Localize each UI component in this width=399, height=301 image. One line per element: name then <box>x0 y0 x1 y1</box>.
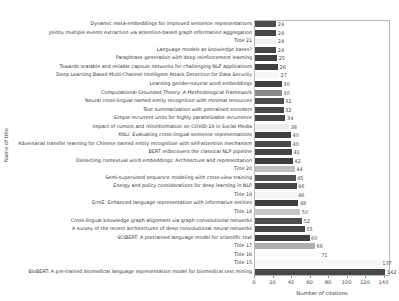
bar-label: BERT rediscovers the classical NLP pipel… <box>148 149 252 155</box>
x-tick-mark <box>365 276 366 278</box>
bar-label: Dissecting contextual word embeddings: A… <box>76 158 252 164</box>
bar-value-label: 27 <box>280 72 286 78</box>
bar-value-label: 34 <box>287 115 293 121</box>
bar-label: XNLI: Evaluating cross-lingual sentence … <box>118 132 252 138</box>
x-axis-title: Number of citations <box>254 290 390 296</box>
x-tick-mark <box>273 276 274 278</box>
bar-value-label: 26 <box>280 64 286 70</box>
x-tick-label: 20 <box>269 279 276 285</box>
bar <box>255 55 277 61</box>
bar-label: Title 16 <box>234 252 252 258</box>
bar <box>255 64 278 70</box>
citations-bar-chart: Dynamic meta-embeddings for improved sen… <box>0 0 399 301</box>
bar-label: Title 17 <box>234 243 252 249</box>
bar <box>255 226 305 232</box>
bar <box>255 47 276 53</box>
bar <box>255 30 276 36</box>
x-tick-label: 120 <box>360 279 370 285</box>
bar-value-label: 48 <box>300 200 306 206</box>
bar <box>255 252 320 258</box>
bar-label: ErnIE: Enhanced language representation … <box>92 200 252 206</box>
bar-label: Language models as knowledge bases? <box>157 47 252 53</box>
bar-label: A survey of the recent architectures of … <box>72 226 252 232</box>
bar <box>255 260 381 266</box>
x-tick-label: 40 <box>288 279 295 285</box>
bar-label: Title 21 <box>234 38 252 44</box>
bar-value-label: 24 <box>278 21 284 27</box>
bar <box>255 192 297 198</box>
bar-value-label: 30 <box>283 90 289 96</box>
bar-label: Title 18 <box>234 209 252 215</box>
x-tick-mark <box>347 276 348 278</box>
bar-label: BioBERT: A pre-trained biomedical langua… <box>28 269 252 275</box>
bar <box>255 132 291 138</box>
bar <box>255 183 297 189</box>
bar-value-label: 45 <box>297 175 303 181</box>
bar <box>255 243 315 249</box>
x-tick-label: 100 <box>342 279 352 285</box>
bar-label: Cross-lingual knowledge graph alignment … <box>71 218 252 224</box>
bar-value-label: 40 <box>293 132 299 138</box>
y-axis-title: Name of title <box>3 115 9 175</box>
bar-value-label: 24 <box>278 38 284 44</box>
bar-label: Title 19 <box>234 192 252 198</box>
bar <box>255 38 276 44</box>
bar-label: Title 15 <box>234 260 252 266</box>
bar <box>255 166 295 172</box>
bar-label: Impact of rumors and misinformation on C… <box>93 124 253 130</box>
bar-value-label: 32 <box>285 98 291 104</box>
bar <box>255 209 300 215</box>
bar-value-label: 25 <box>279 55 285 61</box>
x-tick-mark <box>328 276 329 278</box>
bar <box>255 235 310 241</box>
x-tick-label: 80 <box>325 279 332 285</box>
bar <box>255 149 292 155</box>
bar <box>255 141 291 147</box>
x-tick-mark <box>384 276 385 278</box>
x-tick-label: 140 <box>379 279 389 285</box>
bar-value-label: 24 <box>278 30 284 36</box>
bar-value-label: 41 <box>293 149 299 155</box>
bar-label: Energy and policy considerations for dee… <box>113 183 252 189</box>
x-tick-mark <box>254 276 255 278</box>
x-tick-label: 60 <box>306 279 313 285</box>
bar-value-label: 52 <box>304 218 310 224</box>
bar <box>255 124 289 130</box>
bar <box>255 175 296 181</box>
x-tick-mark <box>291 276 292 278</box>
bar <box>255 90 282 96</box>
bar-label: Simple recurrent units for highly parall… <box>114 115 252 121</box>
bar <box>255 72 279 78</box>
bar-label: Title 20 <box>234 166 252 172</box>
bar-value-label: 46 <box>298 183 304 189</box>
bar-value-label: 44 <box>296 166 302 172</box>
bar <box>255 218 302 224</box>
bar-value-label: 38 <box>291 124 297 130</box>
bar-label: Dynamic meta-embeddings for improved sen… <box>91 21 253 27</box>
x-tick-label: 0 <box>252 279 255 285</box>
bar-value-label: 42 <box>294 158 300 164</box>
x-tick-mark <box>310 276 311 278</box>
bar <box>255 81 282 87</box>
bar-label: Neural cross-lingual named entity recogn… <box>85 98 252 104</box>
bar-label: Learning gender-neutral word embeddings <box>150 81 252 87</box>
bar-value-label: 71 <box>321 252 327 258</box>
bar-label: Deep Learning Based Multi-Channel Intell… <box>56 72 252 78</box>
bar-value-label: 46 <box>298 192 304 198</box>
bar-value-label: 142 <box>387 269 397 275</box>
bar-label: Jointly multiple events extraction via a… <box>49 30 252 36</box>
bar-value-label: 30 <box>283 81 289 87</box>
bar-label: Computational Grounded Theory: A Methodo… <box>101 90 252 96</box>
bar <box>255 98 284 104</box>
bar-value-label: 66 <box>317 243 323 249</box>
bar-value-label: 40 <box>293 141 299 147</box>
bar <box>255 21 276 27</box>
bar <box>255 158 293 164</box>
bar-value-label: 55 <box>306 226 312 232</box>
bar-value-label: 32 <box>285 107 291 113</box>
bar-value-label: 50 <box>302 209 308 215</box>
bar-value-label: 137 <box>382 260 392 266</box>
bar-value-label: 24 <box>278 47 284 53</box>
bar <box>255 269 385 275</box>
bar-label: Text summarization with pretrained encod… <box>143 107 252 113</box>
